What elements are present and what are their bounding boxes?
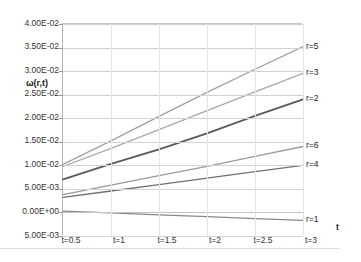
- series-line-r3: [63, 73, 303, 166]
- gridline: [63, 142, 303, 143]
- x-axis-tick-label: t=2.5: [253, 235, 272, 245]
- y-axis-tick-mark: [59, 142, 63, 143]
- gridline: [63, 118, 303, 119]
- y-axis-tick-labels: 4.00E-023.50E-023.00E-022.50E-022.00E-02…: [0, 23, 59, 235]
- gridline: [63, 165, 303, 166]
- y-axis-tick-mark: [59, 95, 63, 96]
- gridline: [63, 24, 303, 25]
- series-label-r2: r=2: [306, 93, 319, 103]
- y-axis-tick-mark: [59, 48, 63, 49]
- gridline: [63, 189, 303, 190]
- series-label-r3: r=3: [306, 67, 319, 77]
- plot-area: [62, 23, 302, 235]
- x-axis-tick-mark: [207, 24, 208, 236]
- series-line-r2: [63, 99, 303, 179]
- y-axis-tick-mark: [59, 165, 63, 166]
- x-axis-tick-label: t=3: [305, 235, 317, 245]
- y-axis-tick-mark: [59, 71, 63, 72]
- y-axis-tick-label: 3.00E-02: [1, 66, 59, 75]
- x-axis-title: t: [336, 222, 339, 232]
- y-axis-tick-label: 5.00E-03: [1, 231, 59, 240]
- series-label-r1: r=1: [306, 214, 319, 224]
- y-axis-tick-label: 1.00E-02: [1, 160, 59, 169]
- gridline: [63, 71, 303, 72]
- y-axis-title: ω(r,t): [14, 78, 60, 88]
- y-axis-tick-label: 2.00E-02: [1, 113, 59, 122]
- x-axis-tick-label: t=0.5: [61, 235, 80, 245]
- y-axis-tick-mark: [59, 212, 63, 213]
- series-label-r4: r=4: [306, 159, 319, 169]
- x-axis-tick-mark: [159, 24, 160, 236]
- series-label-r6: r=6: [306, 140, 319, 150]
- series-line-r5: [63, 47, 303, 165]
- x-axis-tick-mark: [111, 24, 112, 236]
- x-axis-tick-label: t=1: [113, 235, 125, 245]
- x-axis-tick-label: t=2: [209, 235, 221, 245]
- y-axis-tick-mark: [59, 189, 63, 190]
- chart-container: 4.00E-023.50E-023.00E-022.50E-022.00E-02…: [0, 0, 361, 262]
- series-line-r4: [63, 165, 303, 197]
- y-axis-tick-mark: [59, 118, 63, 119]
- gridline: [63, 95, 303, 96]
- y-axis-tick-label: 5.00E-03: [1, 183, 59, 192]
- gridline: [63, 48, 303, 49]
- series-label-r5: r=5: [306, 41, 319, 51]
- y-axis-tick-label: 0.00E+00: [1, 207, 59, 216]
- series-lines-group: [63, 24, 303, 236]
- y-axis-tick-label: 4.00E-02: [1, 19, 59, 28]
- x-axis-tick-mark: [255, 24, 256, 236]
- y-axis-tick-label: 2.50E-02: [1, 89, 59, 98]
- y-axis-tick-label: 1.50E-02: [1, 136, 59, 145]
- x-axis-tick-label: t=1.5: [157, 235, 176, 245]
- y-axis-tick-mark: [59, 24, 63, 25]
- x-axis-tick-labels: t=0.5t=1t=1.5t=2t=2.5t=3: [62, 235, 302, 249]
- x-axis-tick-mark: [303, 24, 304, 236]
- gridline: [63, 212, 303, 213]
- bottom-divider: [0, 248, 340, 249]
- y-axis-tick-label: 3.50E-02: [1, 42, 59, 51]
